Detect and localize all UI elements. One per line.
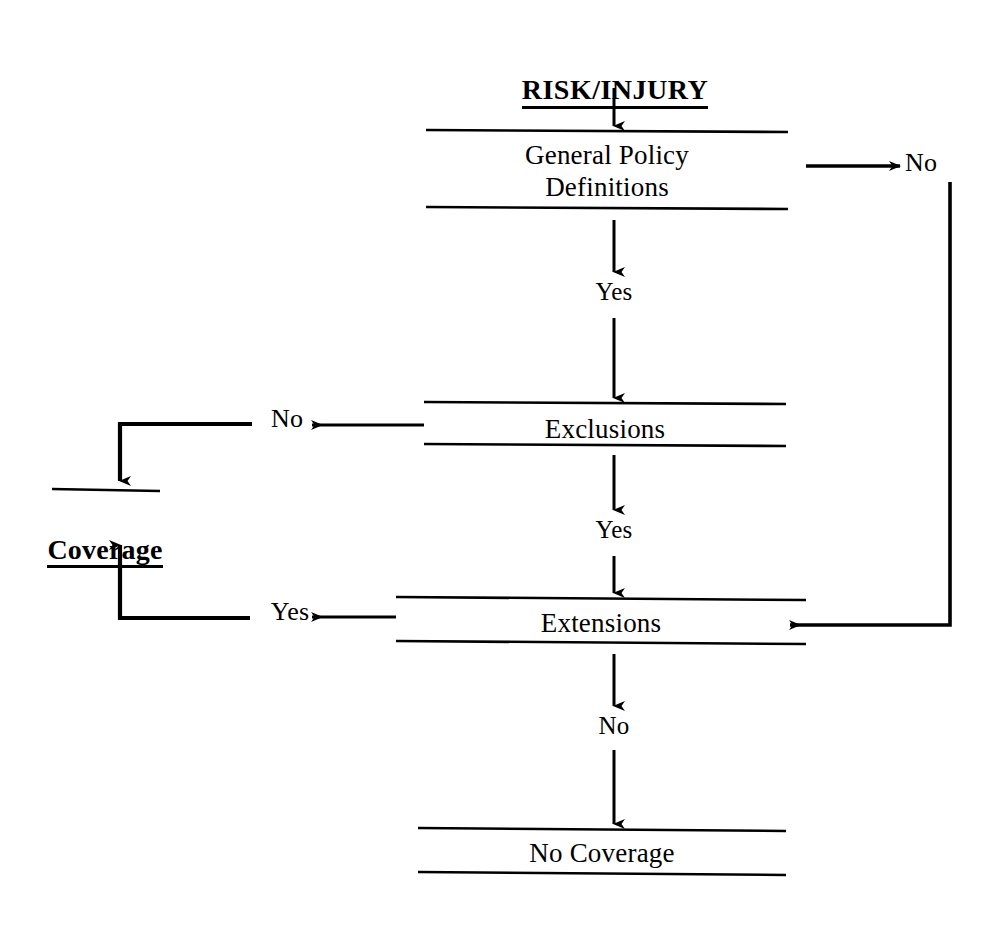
exclusions-box-top-rule <box>424 402 786 404</box>
edge-label-extensions-yes: Yes <box>252 597 328 627</box>
gpd-box-top-rule <box>426 130 788 132</box>
edge-no-right-rail-to-extensions <box>790 182 950 625</box>
edge-label-extensions-no: No <box>578 712 650 740</box>
edge-label-gpd-no: No <box>905 148 975 178</box>
flowchart-connectors <box>0 0 994 925</box>
no-coverage-box-top-rule <box>418 828 786 831</box>
coverage-box-top-rule <box>52 489 160 491</box>
extensions-box-top-rule <box>396 597 806 600</box>
node-exclusions: Exclusions <box>424 414 786 446</box>
extensions-box-bottom-rule <box>396 641 806 644</box>
node-risk-injury-label: RISK/INJURY <box>522 74 709 109</box>
edge-label-exclusions-no: No <box>254 404 320 434</box>
node-no-coverage: No Coverage <box>418 838 786 870</box>
node-general-policy-definitions: General Policy Definitions <box>426 140 788 204</box>
flowchart-page: RISK/INJURY General Policy Definitions E… <box>0 0 994 925</box>
edge-no-left-rail-to-coverage <box>120 424 252 481</box>
node-risk-injury: RISK/INJURY <box>470 40 760 106</box>
edge-label-exclusions-yes: Yes <box>578 516 650 544</box>
gpd-box-bottom-rule <box>426 207 788 209</box>
node-coverage: Coverage <box>40 500 170 566</box>
edge-label-gpd-yes: Yes <box>578 278 650 306</box>
node-coverage-label: Coverage <box>47 534 162 568</box>
node-extensions: Extensions <box>396 608 806 640</box>
no-coverage-box-bottom-rule <box>418 872 786 875</box>
